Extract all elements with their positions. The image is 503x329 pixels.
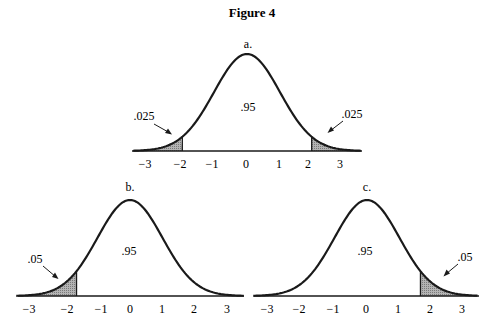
panel-b-center-area: .95 [122, 244, 137, 258]
tick-label: 2 [305, 157, 311, 171]
tick-label: 1 [276, 157, 282, 171]
panel-b-label: b. [126, 180, 135, 194]
panel-b-chart: b. .95 .05 −3−2−10123 [16, 180, 244, 316]
panel-a-right-tail-label: .025 [342, 107, 363, 121]
panel-a-label: a. [244, 37, 252, 51]
panel-c-tail-label: .05 [458, 250, 473, 264]
tick-label: 0 [127, 302, 133, 316]
tick-label: −3 [139, 157, 152, 171]
tick-label: −1 [95, 302, 108, 316]
panel-a-chart: a. .95 .025 .025 −3−2−10123 [132, 37, 363, 171]
panel-c-arrow [444, 264, 459, 277]
tick-label: −1 [327, 302, 340, 316]
panel-c-label: c. [363, 180, 371, 194]
tick-label: −1 [206, 157, 219, 171]
panel-c-center-area: .95 [358, 244, 373, 258]
tick-label: 3 [224, 302, 230, 316]
figure-4: Figure 4 a. .95 .025 .025 −3−2−10123 b. … [0, 0, 503, 329]
panel-b-arrow [43, 266, 59, 279]
panel-b-tick-labels: −3−2−10123 [23, 302, 230, 316]
tick-label: −3 [23, 302, 36, 316]
panel-a-tick-labels: −3−2−10123 [139, 157, 343, 171]
panel-c-tick-labels: −3−2−10123 [261, 302, 465, 316]
tick-label: −3 [261, 302, 274, 316]
panel-a-left-tail-label: .025 [134, 109, 155, 123]
tick-label: 2 [191, 302, 197, 316]
tick-label: 0 [243, 157, 249, 171]
panel-a-left-arrow [154, 124, 172, 135]
panel-c-chart: c. .95 .05 −3−2−10123 [253, 180, 479, 316]
tick-label: 3 [459, 302, 465, 316]
tick-label: 1 [395, 302, 401, 316]
tick-label: −2 [293, 302, 306, 316]
tick-label: 1 [159, 302, 165, 316]
tick-label: 3 [337, 157, 343, 171]
figure-title: Figure 4 [229, 5, 276, 20]
panel-a-center-area: .95 [241, 100, 256, 114]
tick-label: 2 [427, 302, 433, 316]
tick-label: −2 [61, 302, 74, 316]
panel-b-tail-label: .05 [28, 252, 43, 266]
tick-label: −2 [174, 157, 187, 171]
panel-a-right-arrow [328, 121, 344, 133]
tick-label: 0 [363, 302, 369, 316]
